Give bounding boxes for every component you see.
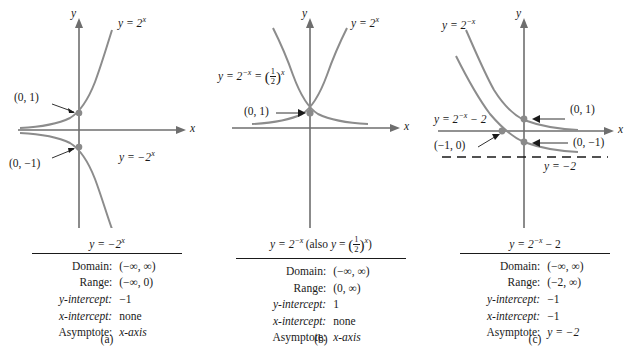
row-key: Domain:: [487, 258, 548, 275]
caption-b: (b): [214, 333, 428, 345]
axis-label-x-a: x: [190, 123, 195, 135]
row-value: none: [333, 313, 369, 330]
point-label-0-neg1-c: (0, −1): [573, 137, 604, 149]
curve-label-2x-a: y = 2x: [118, 16, 146, 29]
row-key: Range:: [59, 274, 120, 291]
axis-label-y-a: y: [71, 8, 76, 20]
table-c: y = 2−x − 2 Domain: (−∞, ∞) Range: (−2, …: [428, 236, 642, 341]
axis-label-y-b: y: [302, 8, 307, 20]
asymptote-label-c: y = −2: [544, 161, 576, 173]
graph-b: y x y = 2x y = 2−x = (12)x (0, 1): [214, 0, 428, 228]
row-key: x-intercept:: [487, 308, 548, 325]
row-value: (−∞, ∞): [119, 258, 155, 275]
graph-c: y x y = 2−x y = 2−x − 2 y = −2 (0, 1) (0…: [428, 0, 642, 228]
row-key: Domain:: [273, 263, 334, 280]
table-rows-c: Domain: (−∞, ∞) Range: (−2, ∞) y-interce…: [487, 258, 584, 341]
point-label-0-1-c: (0, 1): [570, 104, 595, 116]
table-title-b: y = 2−x (also y = (12)x): [236, 236, 406, 259]
row-value: (−2, ∞): [547, 274, 583, 291]
table-row: Range: (0, ∞): [273, 279, 370, 296]
row-value: −1: [547, 291, 583, 308]
axis-label-x-b: x: [404, 121, 409, 133]
row-key: y-intercept:: [273, 296, 334, 313]
row-value: (0, ∞): [333, 279, 369, 296]
curve-label-2x-b: y = 2x: [351, 16, 379, 29]
table-row: Range: (−∞, 0): [59, 274, 156, 291]
table-row: Domain: (−∞, ∞): [59, 258, 156, 275]
curve-label-2negx-half-b: y = 2−x = (12)x: [218, 68, 285, 87]
table-row: x-intercept: none: [59, 308, 156, 325]
row-value: −1: [547, 308, 583, 325]
table-row: y-intercept: −1: [487, 291, 584, 308]
table-row: Range: (−2, ∞): [487, 274, 584, 291]
row-value: (−∞, 0): [119, 274, 155, 291]
table-row: x-intercept: −1: [487, 308, 584, 325]
row-key: y-intercept:: [487, 291, 548, 308]
row-key: x-intercept:: [59, 308, 120, 325]
graph-a: y x y = 2x y = −2x (0, 1) (0, −1): [0, 0, 214, 228]
panel-b: y x y = 2x y = 2−x = (12)x (0, 1) y = 2−…: [214, 0, 428, 359]
row-key: x-intercept:: [273, 313, 334, 330]
table-title-a: y = −2x: [32, 236, 182, 254]
curve-label-neg2x-a: y = −2x: [119, 150, 155, 163]
table-a: y = −2x Domain: (−∞, ∞) Range: (−∞, 0) y…: [0, 236, 214, 341]
row-value: none: [119, 308, 155, 325]
row-value: −1: [119, 291, 155, 308]
point-label-neg1-0-c: (−1, 0): [434, 140, 465, 152]
point-label-0-1-b: (0, 1): [244, 106, 269, 118]
row-value: 1: [333, 296, 369, 313]
table-b: y = 2−x (also y = (12)x) Domain: (−∞, ∞)…: [214, 236, 428, 346]
point-label-0-1-a: (0, 1): [14, 92, 39, 104]
panel-a: y x y = 2x y = −2x (0, 1) (0, −1) y = −2…: [0, 0, 214, 359]
table-title-c: y = 2−x − 2: [460, 236, 610, 254]
row-key: Domain:: [59, 258, 120, 275]
table-rows-a: Domain: (−∞, ∞) Range: (−∞, 0) y-interce…: [59, 258, 156, 341]
table-row: y-intercept: −1: [59, 291, 156, 308]
row-key: Range:: [273, 279, 334, 296]
row-key: Range:: [487, 274, 548, 291]
table-row: y-intercept: 1: [273, 296, 370, 313]
row-value: (−∞, ∞): [333, 263, 369, 280]
table-row: x-intercept: none: [273, 313, 370, 330]
row-value: (−∞, ∞): [547, 258, 583, 275]
curve-label-2negx-c: y = 2−x: [442, 18, 475, 31]
axis-label-y-c: y: [516, 8, 521, 20]
caption-a: (a): [0, 333, 214, 345]
row-key: y-intercept:: [59, 291, 120, 308]
caption-c: (c): [428, 333, 642, 345]
point-label-0-neg1-a: (0, −1): [9, 158, 40, 170]
table-row: Domain: (−∞, ∞): [273, 263, 370, 280]
panel-c: y x y = 2−x y = 2−x − 2 y = −2 (0, 1) (0…: [428, 0, 642, 359]
axis-label-x-c: x: [618, 124, 623, 136]
curve-label-2negx-minus2-c: y = 2−x − 2: [434, 112, 487, 125]
table-row: Domain: (−∞, ∞): [487, 258, 584, 275]
